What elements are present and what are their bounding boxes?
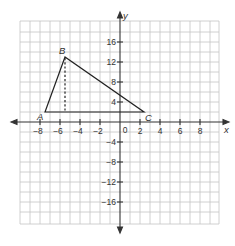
svg-text:4: 4 bbox=[111, 97, 116, 107]
svg-text:12: 12 bbox=[107, 57, 117, 67]
svg-text:16: 16 bbox=[107, 37, 117, 47]
vertex-label-a: A bbox=[36, 111, 43, 122]
x-axis-label: x bbox=[223, 124, 230, 135]
svg-text:−4: −4 bbox=[106, 137, 116, 147]
coordinate-plane: y x −8 −6 −4 −2 0 2 4 6 8 16 12 8 4 −4 −… bbox=[0, 0, 235, 246]
svg-text:−12: −12 bbox=[102, 177, 117, 187]
svg-text:−2: −2 bbox=[93, 126, 103, 136]
svg-text:8: 8 bbox=[111, 77, 116, 87]
svg-text:4: 4 bbox=[158, 126, 163, 136]
svg-text:2: 2 bbox=[138, 126, 143, 136]
axes bbox=[11, 12, 229, 233]
y-axis-up-arrow-icon bbox=[118, 12, 123, 18]
svg-text:0: 0 bbox=[123, 125, 128, 135]
svg-text:−8: −8 bbox=[106, 157, 116, 167]
y-axis-label: y bbox=[122, 10, 129, 21]
svg-text:−6: −6 bbox=[53, 126, 63, 136]
svg-text:−8: −8 bbox=[33, 126, 43, 136]
svg-text:8: 8 bbox=[198, 126, 203, 136]
x-tick-labels: −8 −6 −4 −2 0 2 4 6 8 bbox=[33, 125, 202, 136]
svg-text:−4: −4 bbox=[73, 126, 83, 136]
svg-text:−16: −16 bbox=[102, 197, 117, 207]
x-axis-left-arrow-icon bbox=[11, 120, 17, 125]
svg-text:6: 6 bbox=[178, 126, 183, 136]
y-axis-down-arrow-icon bbox=[118, 227, 123, 233]
vertex-label-b: B bbox=[59, 45, 66, 56]
vertex-label-c: C bbox=[145, 112, 152, 123]
